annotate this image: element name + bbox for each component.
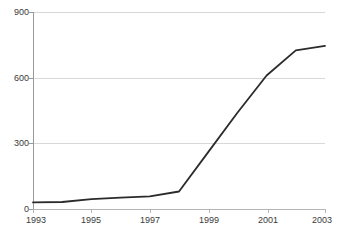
series-line-path — [33, 46, 325, 203]
line-chart: 900 600 300 0 1993 1995 1997 1999 2001 2… — [0, 0, 340, 240]
series-line-svg — [0, 0, 340, 240]
